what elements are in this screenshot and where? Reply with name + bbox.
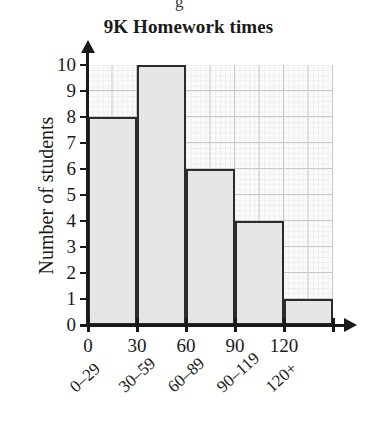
y-tick-label-7: 7 — [46, 133, 76, 152]
y-tick-label-3: 3 — [46, 237, 76, 256]
category-label-0–29: 0–29 — [66, 359, 105, 397]
x-axis-arrow-icon — [344, 318, 357, 332]
chart-title: 9K Homework times — [0, 16, 377, 38]
y-tick-label-4: 4 — [46, 211, 76, 230]
x-tick-label-120: 120 — [261, 336, 307, 355]
category-label-120+: 120+ — [262, 359, 301, 397]
category-label-60–89: 60–89 — [164, 354, 209, 397]
x-axis-line — [80, 324, 348, 327]
bar-30–59 — [137, 65, 186, 325]
y-tick-label-0: 0 — [46, 315, 76, 334]
y-tick-label-9: 9 — [46, 81, 76, 100]
bar-120+ — [284, 299, 333, 325]
y-tick-label-6: 6 — [46, 159, 76, 178]
bar-0–29 — [88, 117, 137, 325]
x-tick-label-60: 60 — [163, 336, 209, 355]
bar-60–89 — [186, 169, 235, 325]
y-axis-line — [86, 52, 89, 327]
plot-area — [88, 65, 333, 325]
cut-off-text-fragment: g — [175, 0, 184, 12]
x-tick-label-30: 30 — [114, 336, 160, 355]
y-axis-arrow-icon — [81, 40, 95, 53]
y-tick-label-2: 2 — [46, 263, 76, 282]
y-tick-label-8: 8 — [46, 107, 76, 126]
x-tick-label-0: 0 — [65, 336, 111, 355]
y-tick-label-5: 5 — [46, 185, 76, 204]
y-tick-label-1: 1 — [46, 289, 76, 308]
category-label-30–59: 30–59 — [115, 354, 160, 397]
y-tick-label-10: 10 — [46, 55, 76, 74]
bar-90–119 — [235, 221, 284, 325]
bar-series — [88, 65, 333, 325]
